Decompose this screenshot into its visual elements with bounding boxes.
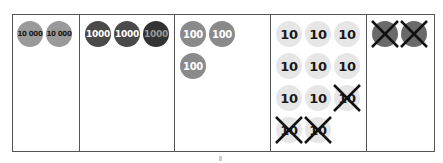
counter-1000: 1000	[114, 21, 140, 47]
counter-1-crossed	[401, 21, 427, 47]
counter-10000: 10 000	[46, 21, 72, 47]
counter-10-crossed: 10	[305, 117, 331, 143]
column-ten-thousands: 10 000 10 000	[13, 15, 80, 151]
counter-1000: 1000	[85, 21, 111, 47]
cross-out-icon	[332, 83, 362, 113]
counter-10: 10	[334, 53, 360, 79]
counter-10: 10	[305, 53, 331, 79]
column-ones	[367, 15, 434, 151]
counter-10000: 10 000	[17, 21, 43, 47]
column-tens: 10 10 10 10 10 10 10 10 10 10 10	[271, 15, 367, 151]
counter-10-crossed: 10	[334, 85, 360, 111]
counter-100: 100	[180, 21, 206, 47]
column-thousands: 1000 1000 1000	[80, 15, 175, 151]
counter-10: 10	[305, 21, 331, 47]
column-hundreds: 100 100 100	[175, 15, 271, 151]
cross-out-icon	[399, 19, 429, 49]
counter-10: 10	[334, 21, 360, 47]
counter-1-crossed	[372, 21, 398, 47]
counter-100: 100	[209, 21, 235, 47]
scroll-marker	[219, 156, 222, 161]
place-value-chart: 10 000 10 000 1000 1000 1000 100 100 100…	[12, 14, 435, 152]
counter-100: 100	[180, 53, 206, 79]
counter-1000: 1000	[143, 21, 169, 47]
counter-10: 10	[276, 85, 302, 111]
cross-out-icon	[274, 115, 304, 145]
cross-out-icon	[303, 115, 333, 145]
counter-10: 10	[305, 85, 331, 111]
counter-10: 10	[276, 21, 302, 47]
cross-out-icon	[370, 19, 400, 49]
counter-10: 10	[276, 53, 302, 79]
counter-10-crossed: 10	[276, 117, 302, 143]
